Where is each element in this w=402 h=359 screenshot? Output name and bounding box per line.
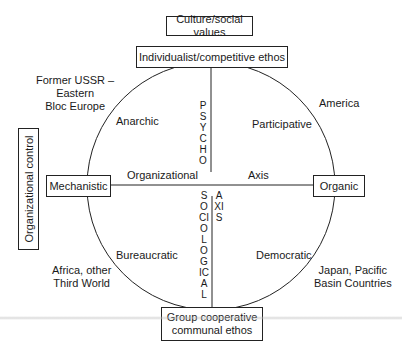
mechanistic-box: Mechanistic xyxy=(46,175,111,197)
organizational-control-label: Organizational control xyxy=(23,135,35,242)
psycho-axis-label: PSYCHO xyxy=(198,100,208,166)
region-africa: Africa, other Third World xyxy=(52,264,111,290)
organizational-axis-right-label: Axis xyxy=(248,169,269,182)
quadrant-democratic: Democratic xyxy=(256,249,312,262)
organic-label: Organic xyxy=(320,180,359,193)
organizational-axis-left-label: Organizational xyxy=(127,169,198,182)
region-former-ussr: Former USSR – Eastern Bloc Europe xyxy=(36,74,114,113)
culture-social-values-box: Culture/social values xyxy=(166,16,253,36)
scan-artifact xyxy=(0,316,402,320)
group-cooperative-ethos-box: Group cooperative communal ethos xyxy=(161,307,263,341)
organizational-control-box: Organizational control xyxy=(18,128,39,250)
organic-box: Organic xyxy=(313,175,365,197)
mechanistic-label: Mechanistic xyxy=(49,180,107,193)
axis-vertical-label: AXIS xyxy=(214,190,224,223)
communal-ethos-label: communal ethos xyxy=(172,324,253,337)
region-america: America xyxy=(319,97,359,110)
sociological-axis-label: SOCIOLOGICAL xyxy=(199,190,209,300)
quadrant-participative: Participative xyxy=(252,118,312,131)
culture-social-values-label: Culture/social values xyxy=(167,13,252,39)
quadrant-anarchic: Anarchic xyxy=(116,115,159,128)
individualist-ethos-box: Individualist/competitive ethos xyxy=(136,46,288,68)
quadrant-bureaucratic: Bureaucratic xyxy=(116,249,178,262)
region-japan-pacific: Japan, Pacific Basin Countries xyxy=(314,264,392,290)
individualist-ethos-label: Individualist/competitive ethos xyxy=(139,51,285,64)
